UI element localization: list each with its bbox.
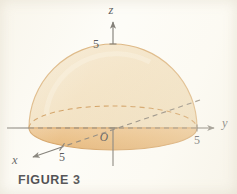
x-axis-label: x bbox=[11, 153, 18, 167]
hemisphere-dome bbox=[29, 44, 197, 128]
figure-container: z 5 y 5 x 5 O FIGURE 3 bbox=[0, 0, 237, 194]
y-axis-label: y bbox=[220, 116, 228, 130]
y-axis-tick-label: 5 bbox=[194, 133, 200, 147]
z-axis-label: z bbox=[108, 3, 114, 17]
figure-caption: FIGURE 3 bbox=[18, 173, 80, 187]
z-axis-tick-label: 5 bbox=[93, 37, 99, 51]
hemisphere-diagram: z 5 y 5 x 5 O FIGURE 3 bbox=[0, 0, 237, 194]
origin-label: O bbox=[100, 131, 109, 143]
x-axis-tick-label: 5 bbox=[59, 150, 65, 164]
